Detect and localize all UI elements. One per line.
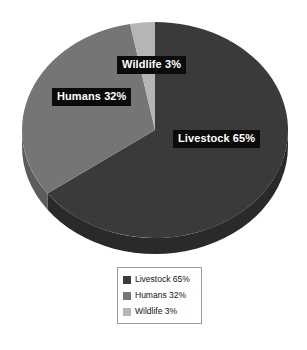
chart-legend: Livestock 65% Humans 32% Wildlife 3% (117, 267, 202, 324)
pie-graphic: Wildlife 3% Humans 32% Livestock 65% (0, 0, 307, 270)
legend-item-livestock: Livestock 65% (123, 272, 196, 287)
legend-label-livestock: Livestock 65% (135, 275, 190, 284)
legend-label-wildlife: Wildlife 3% (135, 307, 177, 316)
slice-label-livestock: Livestock 65% (174, 131, 259, 147)
legend-swatch-wildlife (123, 308, 131, 316)
slice-label-wildlife: Wildlife 3% (118, 57, 185, 73)
legend-swatch-livestock (123, 276, 131, 284)
slice-label-humans: Humans 32% (53, 89, 130, 105)
legend-item-humans: Humans 32% (123, 288, 196, 303)
pie-chart-figure: Wildlife 3% Humans 32% Livestock 65% Liv… (0, 0, 307, 350)
pie-top-faces (22, 22, 288, 238)
legend-swatch-humans (123, 292, 131, 300)
legend-item-wildlife: Wildlife 3% (123, 304, 196, 319)
legend-label-humans: Humans 32% (135, 291, 186, 300)
pie-svg (0, 0, 307, 270)
